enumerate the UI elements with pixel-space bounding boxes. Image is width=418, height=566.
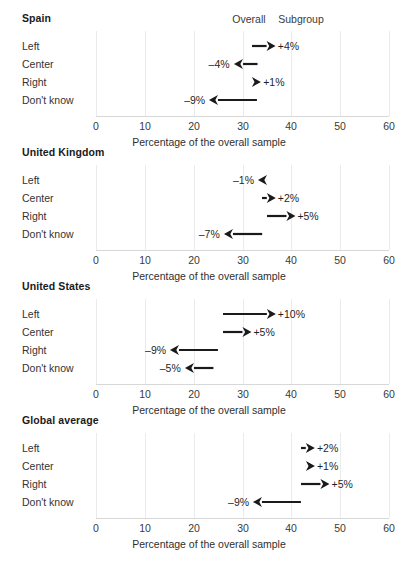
delta-label: +2% xyxy=(278,192,299,204)
delta-label: –1% xyxy=(233,174,254,186)
delta-label: +1% xyxy=(263,76,284,88)
change-arrow xyxy=(171,344,230,356)
gridline-60 xyxy=(389,299,390,384)
panel-title: United Kingdom xyxy=(22,146,104,158)
chart-panel-4: Global averageLeft+2%Center+1%Right+5%Do… xyxy=(0,414,418,548)
row-label-right: Right xyxy=(22,210,47,222)
x-tick-40: 40 xyxy=(285,522,297,534)
row-label-center: Center xyxy=(22,460,54,472)
row-label-right: Right xyxy=(22,76,47,88)
row-label-center: Center xyxy=(22,192,54,204)
delta-label: –9% xyxy=(145,344,166,356)
x-tick-0: 0 xyxy=(93,388,99,400)
change-arrow xyxy=(210,94,269,106)
row-label-left: Left xyxy=(22,442,40,454)
x-axis-line xyxy=(96,518,389,519)
panel-title: United States xyxy=(22,280,90,292)
gridline-50 xyxy=(340,433,341,518)
chart-panel-3: United StatesLeft+10%Center+5%Right–9%Do… xyxy=(0,280,418,414)
x-axis-caption: Percentage of the overall sample xyxy=(0,538,418,550)
row-label-don-t-know: Don't know xyxy=(22,362,74,374)
column-header-overall: Overall xyxy=(232,13,265,25)
gridline-10 xyxy=(145,165,146,250)
gridline-0 xyxy=(96,433,97,518)
gridline-10 xyxy=(145,31,146,116)
x-tick-40: 40 xyxy=(285,254,297,266)
x-tick-20: 20 xyxy=(188,388,200,400)
x-tick-50: 50 xyxy=(334,254,346,266)
gridline-0 xyxy=(96,299,97,384)
x-tick-0: 0 xyxy=(93,120,99,132)
gridline-0 xyxy=(96,31,97,116)
gridline-20 xyxy=(194,165,195,250)
x-tick-30: 30 xyxy=(237,388,249,400)
change-arrow xyxy=(225,228,274,240)
row-label-left: Left xyxy=(22,308,40,320)
delta-label: +5% xyxy=(297,210,318,222)
x-tick-60: 60 xyxy=(383,120,395,132)
chart-canvas: SpainOverallSubgroupLeft+4%Center–4%Righ… xyxy=(0,0,418,566)
chart-panel-2: United KingdomLeft–1%Center+2%Right+5%Do… xyxy=(0,146,418,280)
x-tick-0: 0 xyxy=(93,254,99,266)
delta-label: +4% xyxy=(278,40,299,52)
change-arrow xyxy=(254,496,313,508)
x-tick-10: 10 xyxy=(139,254,151,266)
x-tick-60: 60 xyxy=(383,254,395,266)
row-label-center: Center xyxy=(22,326,54,338)
gridline-50 xyxy=(340,299,341,384)
gridline-60 xyxy=(389,433,390,518)
x-tick-50: 50 xyxy=(334,120,346,132)
x-tick-10: 10 xyxy=(139,388,151,400)
x-tick-40: 40 xyxy=(285,120,297,132)
change-arrow xyxy=(220,308,284,320)
x-axis-line xyxy=(96,116,389,117)
gridline-0 xyxy=(96,165,97,250)
column-header-subgroup: Subgroup xyxy=(278,13,324,25)
x-tick-30: 30 xyxy=(237,120,249,132)
x-tick-40: 40 xyxy=(285,388,297,400)
x-tick-10: 10 xyxy=(139,120,151,132)
x-tick-50: 50 xyxy=(334,522,346,534)
x-tick-30: 30 xyxy=(237,522,249,534)
x-tick-0: 0 xyxy=(93,522,99,534)
delta-label: –5% xyxy=(160,362,181,374)
delta-label: +5% xyxy=(332,478,353,490)
x-axis-caption-text: Percentage of the overall sample xyxy=(132,538,286,550)
delta-label: –9% xyxy=(184,94,205,106)
x-tick-20: 20 xyxy=(188,120,200,132)
change-arrow xyxy=(186,362,225,374)
x-tick-20: 20 xyxy=(188,254,200,266)
panel-title: Spain xyxy=(22,12,51,24)
gridline-60 xyxy=(389,165,390,250)
change-arrow xyxy=(259,174,279,186)
x-axis-line xyxy=(96,384,389,385)
x-tick-20: 20 xyxy=(188,522,200,534)
gridline-50 xyxy=(340,31,341,116)
delta-label: –7% xyxy=(199,228,220,240)
row-label-don-t-know: Don't know xyxy=(22,496,74,508)
x-axis-line xyxy=(96,250,389,251)
row-label-left: Left xyxy=(22,40,40,52)
x-tick-60: 60 xyxy=(383,388,395,400)
panel-title: Global average xyxy=(22,414,99,426)
row-label-right: Right xyxy=(22,478,47,490)
x-tick-10: 10 xyxy=(139,522,151,534)
delta-label: +1% xyxy=(317,460,338,472)
delta-label: +2% xyxy=(317,442,338,454)
row-label-don-t-know: Don't know xyxy=(22,228,74,240)
x-tick-60: 60 xyxy=(383,522,395,534)
gridline-60 xyxy=(389,31,390,116)
gridline-20 xyxy=(194,433,195,518)
row-label-don-t-know: Don't know xyxy=(22,94,74,106)
row-label-left: Left xyxy=(22,174,40,186)
gridline-10 xyxy=(145,433,146,518)
delta-label: –4% xyxy=(209,58,230,70)
chart-panel-1: SpainOverallSubgroupLeft+4%Center–4%Righ… xyxy=(0,12,418,146)
gridline-50 xyxy=(340,165,341,250)
gridline-40 xyxy=(291,165,292,250)
gridline-10 xyxy=(145,299,146,384)
x-tick-50: 50 xyxy=(334,388,346,400)
x-tick-30: 30 xyxy=(237,254,249,266)
delta-label: +10% xyxy=(278,308,305,320)
row-label-center: Center xyxy=(22,58,54,70)
